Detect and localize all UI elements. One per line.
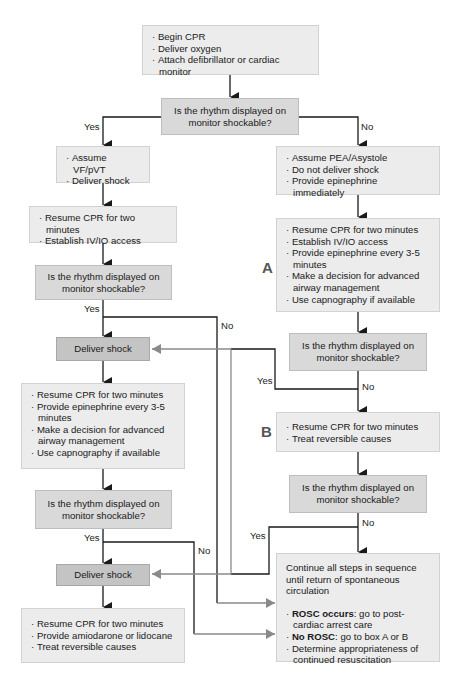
yes-label: Yes — [84, 303, 100, 314]
pea-box: Assume PEA/Asystole Do not deliver shock… — [276, 146, 440, 195]
start-item: Begin CPR — [152, 31, 310, 43]
decision-shockable-2: Is the rhythm displayed onmonitor shocka… — [35, 265, 172, 300]
final-intro: Continue all steps in sequence until ret… — [286, 562, 431, 597]
decision-text: Is the rhythm displayed on — [48, 271, 160, 282]
shock-text: Deliver shock — [74, 343, 132, 355]
deliver-shock-1: Deliver shock — [56, 337, 150, 361]
decision-text: monitor shockable? — [188, 117, 271, 128]
decision-text: monitor shockable? — [62, 510, 145, 521]
no-rosc-bold: No ROSC — [292, 631, 335, 642]
box-b-item: Treat reversible causes — [286, 433, 431, 445]
decision-text: monitor shockable? — [316, 494, 399, 505]
resume-item: Establish IV/IO access — [39, 235, 168, 247]
no-label: No — [221, 320, 233, 331]
box-a: Resume CPR for two minutes Establish IV/… — [276, 218, 440, 312]
rosc-bold: ROSC occurs — [292, 608, 354, 619]
no-label: No — [198, 545, 210, 556]
no-label: No — [362, 381, 374, 392]
final-item: Provide amiodarone or lidocane — [31, 630, 176, 642]
rosc-item: ROSC occurs: go to post-cardiac arrest c… — [286, 608, 431, 631]
vf-item: Deliver shock — [66, 175, 141, 187]
resume-item: Make a decision for advanced airway mana… — [31, 424, 176, 447]
final-left-box: Resume CPR for two minutes Provide amiod… — [21, 608, 185, 663]
no-rosc-rest: : go to box A or B — [335, 631, 408, 642]
start-item: Attach defibrillator or cardiac monitor — [152, 54, 310, 77]
vf-item: Assume VF/pVT — [66, 152, 141, 175]
shock-text: Deliver shock — [74, 569, 132, 581]
deliver-shock-2: Deliver shock — [56, 564, 150, 586]
box-a-label: A — [262, 259, 273, 276]
decision-shockable-right-2: Is the rhythm displayed onmonitor shocka… — [289, 475, 427, 513]
decision-text: Is the rhythm displayed on — [302, 340, 414, 351]
decision-text: Is the rhythm displayed on — [48, 498, 160, 509]
box-a-item: Establish IV/IO access — [286, 236, 431, 248]
decision-text: Is the rhythm displayed on — [174, 105, 286, 116]
resume-item: Use capnography if available — [31, 447, 176, 459]
decision-text: monitor shockable? — [62, 283, 145, 294]
resume-item: Resume CPR for two minutes — [39, 212, 168, 235]
yes-label: Yes — [257, 375, 273, 386]
yes-label: Yes — [250, 530, 266, 541]
pea-item: Provide epinephrine immediately — [286, 175, 431, 198]
resume-cpr-box-2: Resume CPR for two minutes Provide epine… — [21, 383, 185, 469]
box-b-label: B — [261, 423, 272, 440]
box-a-item: Make a decision for advanced airway mana… — [286, 270, 431, 293]
resume-item: Resume CPR for two minutes — [31, 389, 176, 401]
decision-shockable-right-1: Is the rhythm displayed onmonitor shocka… — [289, 333, 427, 371]
box-b: Resume CPR for two minutes Treat reversi… — [276, 412, 440, 452]
final-right-box: Continue all steps in sequence until ret… — [276, 553, 440, 662]
pea-item: Do not deliver shock — [286, 164, 431, 176]
final-item: Resume CPR for two minutes — [31, 618, 176, 630]
determine-item: Determine appropriateness of continued r… — [286, 643, 431, 666]
resume-cpr-box-1: Resume CPR for two minutes Establish IV/… — [29, 206, 177, 243]
box-a-item: Resume CPR for two minutes — [286, 224, 431, 236]
no-label: No — [361, 121, 373, 132]
decision-text: monitor shockable? — [316, 352, 399, 363]
yes-label: Yes — [84, 121, 100, 132]
box-b-item: Resume CPR for two minutes — [286, 421, 431, 433]
yes-label: Yes — [84, 532, 100, 543]
decision-shockable-1: Is the rhythm displayed onmonitor shocka… — [161, 98, 299, 135]
box-a-item: Provide epinephrine every 3-5 minutes — [286, 247, 431, 270]
start-box: Begin CPR Deliver oxygen Attach defibril… — [142, 25, 319, 75]
start-item: Deliver oxygen — [152, 43, 310, 55]
no-label: No — [362, 517, 374, 528]
decision-text: Is the rhythm displayed on — [302, 482, 414, 493]
resume-item: Provide epinephrine every 3-5 minutes — [31, 401, 176, 424]
pea-item: Assume PEA/Asystole — [286, 152, 431, 164]
box-a-item: Use capnography if available — [286, 294, 431, 306]
vf-box: Assume VF/pVT Deliver shock — [56, 146, 150, 183]
no-rosc-item: No ROSC: go to box A or B — [286, 631, 431, 643]
decision-shockable-3: Is the rhythm displayed onmonitor shocka… — [35, 490, 172, 529]
final-item: Treat reversible causes — [31, 641, 176, 653]
